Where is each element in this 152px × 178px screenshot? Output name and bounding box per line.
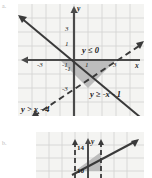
top-x-axis-label: x [135, 62, 139, 70]
bottom-graph-canvas [36, 132, 144, 178]
top-y-axis-label: y [77, 5, 80, 13]
inequality-label-y-ge-neg-x-minus-1: y ≥ -x - 1 [90, 90, 121, 99]
bottom-value-label-14: 14 [77, 145, 84, 152]
top-xtick-1: 1 [85, 62, 89, 69]
top-ytick--3: -3 [62, 86, 68, 93]
top-ytick-1: 1 [65, 41, 69, 48]
top-xtick--3: -3 [37, 62, 43, 69]
top-coordinate-graph: -3 -1 1 3 3 1 -1 -3 y x y ≤ 0 [18, 4, 144, 116]
top-xtick-3: 3 [113, 62, 117, 69]
bottom-value-label-10: 10 [77, 168, 84, 175]
bottom-y-axis-label: y [91, 138, 94, 146]
inequality-label-y-le-0: y ≤ 0 [82, 46, 99, 55]
top-ytick-3: 3 [65, 26, 69, 33]
top-ytick--1: -1 [65, 66, 71, 73]
item-marker-b: b. [2, 140, 7, 146]
bottom-coordinate-graph: y 14 10 [36, 132, 144, 178]
top-graph-canvas [18, 4, 144, 116]
inequality-label-y-gt-x-minus-4: y > x - 4 [21, 105, 49, 114]
item-marker-a: a. [2, 3, 6, 9]
